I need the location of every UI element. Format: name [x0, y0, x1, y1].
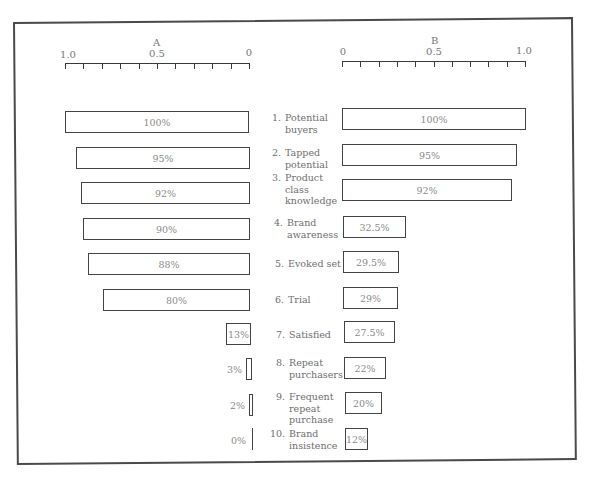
bar-a-8 — [246, 358, 252, 380]
axis-tick — [470, 61, 471, 67]
bar-b-9-label: 20% — [353, 398, 374, 409]
bar-a-6-label: 80% — [166, 295, 187, 306]
axis-b-tick-0-5: 0.5 — [426, 46, 442, 57]
axis-a-tick-0: 0 — [246, 47, 252, 58]
stage-4: 4.Brandawareness — [274, 217, 338, 240]
bar-b-4-label: 32.5% — [359, 222, 389, 233]
bar-a-2-label: 95% — [152, 153, 173, 164]
stage-9: 9.Frequentrepeatpurchase — [276, 391, 334, 426]
stage-8: 8.Repeatpurchasers — [276, 357, 343, 380]
axis-tick — [525, 61, 526, 67]
axis-tick — [157, 63, 158, 69]
axis-tick — [342, 61, 343, 67]
axis-tick — [415, 61, 416, 67]
axis-tick — [194, 63, 195, 69]
bar-b-7: 27.5% — [344, 321, 395, 343]
bar-b-1-label: 100% — [420, 114, 447, 125]
bar-b-2-label: 95% — [419, 150, 440, 161]
bar-a-7: 13% — [226, 323, 251, 345]
bar-b-10: 12% — [345, 428, 368, 450]
bar-b-7-label: 27.5% — [354, 327, 384, 338]
bar-b-1: 100% — [342, 108, 526, 130]
stage-7: 7.Satisfied — [276, 329, 331, 341]
axis-a-title: A — [153, 37, 160, 48]
axis-tick — [212, 63, 213, 69]
bar-b-3-label: 92% — [416, 185, 437, 196]
bar-a-7-label: 13% — [228, 329, 249, 340]
bar-a-1: 100% — [65, 111, 249, 133]
bar-a-6: 80% — [103, 289, 250, 311]
axis-tick — [65, 63, 66, 69]
bar-a-3-label: 92% — [155, 188, 176, 199]
axis-tick — [507, 61, 508, 67]
axis-tick — [488, 61, 489, 67]
axis-tick — [139, 63, 140, 69]
bar-b-9: 20% — [345, 392, 382, 414]
stage-5: 5.Evoked set — [275, 258, 341, 270]
stage-10: 10.Brandinsistence — [276, 428, 337, 451]
stage-1: 1.Potentialbuyers — [272, 112, 328, 135]
bar-b-10-label: 12% — [346, 434, 367, 445]
stage-2: 2.Tappedpotential — [272, 147, 328, 170]
bar-a-2: 95% — [76, 147, 250, 169]
axis-tick — [397, 61, 398, 67]
axis-a-tick-1-0: 1.0 — [60, 49, 76, 60]
axis-tick — [452, 61, 453, 67]
axis-tick — [83, 63, 84, 69]
bar-b-3: 92% — [342, 179, 512, 201]
bar-b-8-label: 22% — [354, 363, 375, 374]
bar-a-8-label: 3% — [218, 364, 242, 375]
axis-tick — [120, 63, 121, 69]
bar-a-9-label: 2% — [221, 400, 245, 411]
axis-b-tick-0: 0 — [340, 46, 346, 57]
bar-a-4-label: 90% — [156, 224, 177, 235]
axis-tick — [434, 61, 435, 67]
bar-b-4: 32.5% — [343, 216, 406, 238]
bar-b-2: 95% — [342, 144, 517, 166]
bar-a-1-label: 100% — [143, 117, 170, 128]
axis-tick — [249, 63, 250, 69]
bar-b-6: 29% — [343, 287, 398, 309]
axis-b-title: B — [431, 35, 438, 46]
bar-b-5: 29.5% — [343, 251, 399, 273]
axis-tick — [360, 61, 361, 67]
axis-b-tick-1-0: 1.0 — [516, 45, 532, 56]
stage-6: 6.Trial — [275, 294, 311, 306]
stage-3: 3.Productclassknowledge — [272, 172, 337, 207]
bar-a-4: 90% — [83, 218, 250, 240]
bar-a-3: 92% — [81, 182, 250, 204]
bar-a-9 — [249, 394, 253, 416]
axis-tick — [102, 63, 103, 69]
bar-b-6-label: 29% — [360, 293, 381, 304]
bar-a-10-label: 0% — [222, 435, 246, 446]
bar-a-5-label: 88% — [158, 259, 179, 270]
bar-a-10 — [252, 428, 254, 450]
bar-a-5: 88% — [88, 253, 250, 275]
axis-tick — [231, 63, 232, 69]
axis-tick — [175, 63, 176, 69]
axis-tick — [379, 61, 380, 67]
bar-b-8: 22% — [344, 357, 386, 379]
axis-a-tick-0-5: 0.5 — [149, 48, 165, 59]
bar-b-5-label: 29.5% — [356, 257, 386, 268]
